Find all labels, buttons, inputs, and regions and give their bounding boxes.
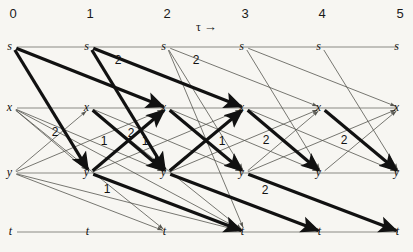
node-s1: s	[84, 39, 89, 54]
edge-weight-label-2: 2	[128, 126, 135, 140]
tau-symbol: τ	[196, 20, 201, 34]
node-s2: s	[161, 39, 166, 54]
edge-weight-label-3: 2	[193, 53, 200, 67]
column-tick-5: 5	[396, 6, 403, 21]
node-s5: s	[394, 39, 399, 54]
node-s0: s	[7, 39, 12, 54]
node-s4: s	[316, 39, 321, 54]
edge-weight-label-1: 2	[115, 53, 122, 67]
node-y5: y	[394, 165, 399, 180]
node-x0: x	[7, 100, 12, 115]
bold-edge-y2-to-t4	[170, 174, 318, 230]
node-y4: y	[316, 165, 321, 180]
node-s3: s	[239, 39, 244, 54]
node-x5: x	[394, 100, 399, 115]
thin-edge-y0-to-t3	[16, 174, 240, 231]
thin-edge-s2-to-y3	[169, 50, 243, 169]
trellis-edges-canvas	[0, 0, 413, 252]
edge-weight-label-0: 2	[52, 125, 59, 139]
node-x3: x	[239, 100, 244, 115]
node-t4: t	[318, 224, 321, 239]
edge-weight-label-4: 1	[101, 134, 108, 148]
thin-edge-s3-to-x5	[248, 48, 396, 106]
thin-edge-s4-to-y5	[324, 50, 398, 169]
node-x1: x	[84, 100, 89, 115]
bold-edge-s0-to-y1	[15, 50, 88, 170]
column-tick-4: 4	[318, 6, 325, 21]
edge-weight-label-6: 1	[104, 182, 111, 196]
node-y2: y	[161, 165, 166, 180]
node-t0: t	[9, 224, 12, 239]
bold-edge-y1-to-t3	[93, 174, 241, 230]
bold-edge-s1-to-y2	[92, 50, 165, 170]
node-t3: t	[241, 224, 244, 239]
node-y3: y	[239, 165, 244, 180]
node-x2: x	[161, 100, 166, 115]
node-x4: x	[316, 100, 321, 115]
column-tick-2: 2	[163, 6, 170, 21]
thin-edge-y0-to-x1	[16, 111, 87, 171]
node-y1: y	[84, 165, 89, 180]
thin-edge-x0-to-y1	[16, 110, 87, 170]
edge-weight-label-7: 1	[219, 134, 226, 148]
node-t5: t	[396, 224, 399, 239]
edge-weight-label-10: 2	[262, 183, 269, 197]
column-tick-1: 1	[86, 6, 93, 21]
bold-edge-y3-to-t5	[248, 174, 396, 230]
edge-weight-label-8: 2	[263, 133, 270, 147]
edge-weight-label-9: 2	[341, 133, 348, 147]
tau-axis-annotation: τ→	[196, 19, 217, 35]
thin-edge-y0-to-t2	[16, 174, 163, 230]
edge-weight-label-5: 1	[142, 134, 149, 148]
node-y0: y	[7, 165, 12, 180]
node-t1: t	[86, 224, 89, 239]
thin-edge-s3-to-y4	[247, 50, 320, 169]
bold-edge-s0-to-x2	[16, 48, 163, 106]
tau-arrow-icon: →	[204, 19, 217, 34]
node-t2: t	[163, 224, 166, 239]
column-tick-0: 0	[9, 6, 16, 21]
column-tick-3: 3	[241, 6, 248, 21]
trellis-figure: 012345 τ→ ssssssxxxxxxyyyyyytttttt 22221…	[0, 0, 413, 252]
